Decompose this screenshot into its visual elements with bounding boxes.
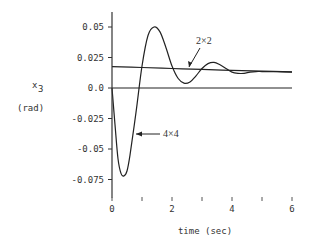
series-line-44 <box>112 27 292 176</box>
x-axis-label: time (sec) <box>178 226 232 236</box>
y-tick-label: 0.0 <box>88 83 104 93</box>
x-tick-label: 6 <box>289 204 294 214</box>
y-tick-label: 0.025 <box>77 53 104 63</box>
arrow-head-icon <box>136 132 142 137</box>
chart: 0.050.0250.0-0.025-0.05-0.07502462×24×4x… <box>0 0 312 246</box>
x-tick-label: 2 <box>169 204 174 214</box>
y-tick-label: -0.025 <box>71 114 104 124</box>
y-tick-label: 0.05 <box>82 22 104 32</box>
x-tick-label: 0 <box>109 204 114 214</box>
annotation-2x2: 2×2 <box>196 35 212 46</box>
annotation-4x4: 4×4 <box>163 128 179 139</box>
plot-area <box>112 27 292 176</box>
y-axis-unit: (rad) <box>17 103 44 113</box>
y-axis-label-subscript: 3 <box>38 84 43 94</box>
axis-labels: 0.050.0250.0-0.025-0.05-0.07502462×24×4x… <box>17 22 295 236</box>
y-tick-label: -0.075 <box>71 175 104 185</box>
y-tick-label: -0.05 <box>77 144 104 154</box>
x-tick-label: 4 <box>229 204 234 214</box>
